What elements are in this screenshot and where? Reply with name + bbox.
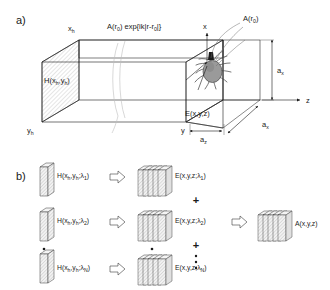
hologram-plane-n bbox=[40, 250, 54, 283]
hologram-plane-2 bbox=[40, 208, 54, 241]
volume-top-face bbox=[79, 40, 223, 58]
hologram-label-n: H(xh,yh;λN) bbox=[57, 264, 90, 273]
axis-y-label: y bbox=[181, 126, 185, 135]
amplitude-point-label: A(r0) bbox=[243, 14, 259, 24]
tick-head bbox=[208, 52, 214, 60]
dim-ax-depth-label: ax bbox=[262, 120, 269, 130]
dim-az-label: az bbox=[200, 135, 207, 145]
axis-z-label: z bbox=[306, 96, 310, 105]
sum-plus-2: + bbox=[193, 239, 199, 251]
axis-x-label: x bbox=[203, 22, 207, 31]
result-arrow bbox=[232, 216, 247, 228]
panel-a-letter: a) bbox=[16, 14, 26, 26]
result-stack bbox=[258, 211, 292, 241]
figure-root: a) bbox=[0, 0, 330, 290]
row-lambda-2: H(xh,yh;λ2) E(x,y,z;λ2) bbox=[40, 208, 206, 241]
hologram-plane-1 bbox=[40, 163, 54, 196]
dim-ax-vertical-label: ax bbox=[277, 66, 284, 76]
figure-svg: a) bbox=[0, 0, 330, 290]
sum-plus-1: + bbox=[193, 194, 199, 206]
field-label: E(x,y,z) bbox=[185, 109, 210, 118]
volume-stack-2 bbox=[138, 211, 172, 241]
hologram-label-2: H(xh,yh;λ2) bbox=[57, 217, 89, 226]
arrow-2 bbox=[110, 216, 125, 228]
arrow-n bbox=[110, 263, 125, 275]
result-label: A(x,y,z) bbox=[295, 220, 318, 228]
tick-body-shade bbox=[206, 62, 214, 72]
dim-ax-depth bbox=[228, 106, 258, 133]
wavefront-arc-2 bbox=[120, 41, 125, 118]
panel-b: b) H(xh,yh;λ1) bbox=[16, 163, 318, 285]
row-lambda-1: H(xh,yh;λ1) bbox=[40, 163, 206, 196]
row-lambda-n: H(xh,yh;λN) E(x,y,z;λN) bbox=[40, 250, 207, 285]
detector-slab bbox=[223, 40, 260, 100]
volume-label-1: E(x,y,z;λ1) bbox=[175, 172, 206, 181]
axis-xh-label: xh bbox=[68, 24, 75, 34]
volume-label-n: E(x,y,z;λN) bbox=[175, 264, 207, 273]
propagation-term-label: A(r0) exp{ik|r-r0|} bbox=[107, 22, 162, 32]
leader-amplitude-1 bbox=[211, 23, 240, 58]
volume-stack-n bbox=[138, 255, 172, 285]
leader-amplitude-2 bbox=[215, 27, 243, 62]
panel-b-letter: b) bbox=[16, 170, 26, 182]
wavefront-tail bbox=[112, 116, 118, 133]
volume-label-2: E(x,y,z;λ2) bbox=[175, 217, 206, 226]
volume-stack-1 bbox=[138, 166, 172, 196]
hologram-label-1: H(xh,yh;λ1) bbox=[57, 172, 89, 181]
wavefront-arc-1 bbox=[113, 43, 118, 116]
axis-yh-label: yh bbox=[27, 126, 34, 136]
panel-a: a) bbox=[16, 14, 310, 145]
arrow-1 bbox=[110, 171, 125, 183]
